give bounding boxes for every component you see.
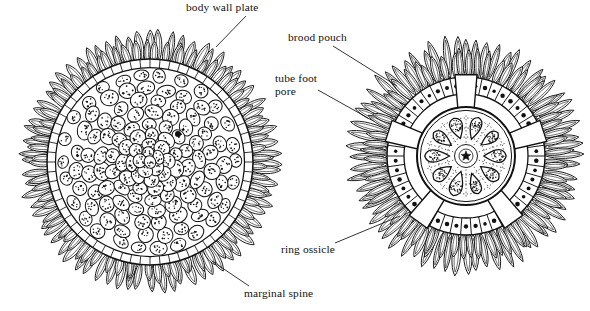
label-marginal-spine: marginal spine	[244, 287, 313, 300]
tube-foot-pore	[436, 89, 440, 93]
left-madreporite-pore	[175, 131, 181, 137]
tube-foot-pore	[413, 106, 417, 110]
tube-foot-pore	[483, 86, 487, 90]
tube-foot-pore	[521, 113, 525, 117]
tube-foot-pore	[445, 222, 450, 227]
tube-foot-pore	[419, 99, 423, 103]
label-tube-foot-pore: tube footpore	[275, 72, 317, 97]
label-tube-foot-pore-line1: tube foot	[275, 72, 317, 84]
tube-foot-pore	[397, 177, 402, 182]
figure-canvas	[0, 0, 590, 311]
tube-foot-pore	[436, 219, 440, 223]
tube-foot-pore	[534, 159, 539, 164]
body-wall-plate	[174, 222, 189, 235]
label-tube-foot-pore-line2: pore	[275, 85, 296, 97]
tube-foot-pore	[534, 149, 538, 153]
tube-foot-pore	[464, 224, 468, 228]
tube-foot-pore	[533, 168, 537, 172]
tube-foot-pore	[527, 186, 531, 190]
body-wall-plate	[131, 242, 146, 253]
tube-foot-pore	[394, 149, 397, 152]
tube-foot-pore	[522, 195, 526, 199]
tube-foot-pore	[454, 224, 458, 228]
label-brood-pouch: brood pouch	[288, 31, 347, 44]
tube-foot-pore	[401, 186, 405, 190]
tube-foot-pore	[445, 86, 449, 90]
tube-foot-pore	[492, 218, 497, 223]
tube-foot-pore	[492, 90, 495, 93]
label-ring-ossicle: ring ossicle	[281, 243, 335, 256]
tube-foot-pore	[516, 106, 520, 110]
tube-foot-pore	[508, 99, 513, 104]
interradial-plate	[455, 75, 477, 108]
tube-foot-pore	[500, 94, 504, 98]
tube-foot-pore	[530, 178, 534, 182]
tube-foot-pore	[428, 94, 432, 98]
tube-foot-pore	[515, 202, 520, 207]
tube-foot-pore	[395, 168, 399, 172]
right-apical-system	[455, 145, 478, 168]
tube-foot-pore	[473, 224, 477, 228]
tube-foot-pore	[483, 222, 487, 226]
label-body-wall-plate: body wall plate	[186, 1, 258, 14]
tube-foot-pore	[406, 195, 410, 199]
tube-foot-pore	[394, 159, 398, 163]
tube-foot-pore	[406, 113, 410, 117]
body-wall-plate	[204, 163, 221, 180]
tube-foot-pore	[412, 202, 417, 207]
